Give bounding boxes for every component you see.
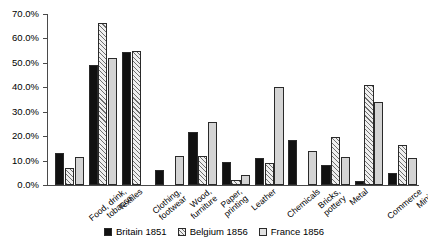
legend-entry: France 1856 [259, 226, 324, 237]
legend-swatch-icon [104, 228, 112, 236]
y-axis-tick-label: 30.0% [12, 107, 39, 117]
bar [75, 157, 84, 185]
chart-legend: Britain 1851Belgium 1856France 1856 [0, 226, 428, 237]
legend-label: Belgium 1856 [190, 226, 248, 237]
bar [364, 85, 373, 185]
x-axis-tick-label: Paper, printing [216, 187, 250, 219]
bar [321, 165, 330, 185]
bar [274, 87, 283, 185]
bar [98, 23, 107, 185]
y-axis-tick-mark [43, 185, 47, 186]
bar [122, 52, 131, 185]
bar [308, 151, 317, 185]
bar [55, 153, 64, 185]
legend-entry: Belgium 1856 [178, 226, 248, 237]
bar [231, 180, 240, 185]
bar [331, 137, 340, 185]
y-axis-tick-mark [43, 87, 47, 88]
y-axis: 0.0%10.0%20.0%30.0%40.0%50.0%60.0%70.0% [0, 14, 45, 186]
bar-group [155, 14, 184, 185]
y-axis-tick-mark [43, 38, 47, 39]
y-axis-tick-mark [43, 14, 47, 15]
y-axis-tick-mark [43, 63, 47, 64]
legend-swatch-icon [178, 228, 186, 236]
bar-group [188, 14, 217, 185]
legend-entry: Britain 1851 [104, 226, 167, 237]
bar-chart: 0.0%10.0%20.0%30.0%40.0%50.0%60.0%70.0% … [0, 0, 428, 247]
bar-group [89, 14, 118, 185]
x-axis-tick-label: Wood, furniture [184, 187, 220, 221]
legend-label: France 1856 [271, 226, 324, 237]
bar [408, 158, 417, 185]
x-axis-tick-label: Leather [250, 187, 278, 213]
bars-layer [47, 14, 419, 186]
bar [374, 102, 383, 185]
bar-group [255, 14, 284, 185]
x-axis-tick-label: Metal [348, 187, 370, 208]
y-axis-tick-label: 60.0% [12, 34, 39, 44]
bar [341, 157, 350, 185]
bar [288, 140, 297, 185]
y-axis-tick-label: 70.0% [12, 9, 39, 19]
y-axis-tick-mark [43, 136, 47, 137]
y-axis-tick-label: 0.0% [17, 180, 39, 190]
bar [188, 132, 197, 185]
bar [198, 156, 207, 185]
x-axis-tick-label: Clothing, footwear [151, 187, 189, 223]
bar [388, 173, 397, 185]
bar-group [288, 14, 317, 185]
y-axis-tick-mark [43, 112, 47, 113]
plot-area [47, 14, 419, 186]
bar [355, 181, 364, 185]
bar-group [122, 14, 151, 185]
bar-group [222, 14, 251, 185]
bar-group [355, 14, 384, 185]
bar [65, 168, 74, 185]
y-axis-tick-label: 50.0% [12, 58, 39, 68]
bar [222, 162, 231, 185]
bar [155, 170, 164, 185]
bar [175, 156, 184, 185]
bar-group [321, 14, 350, 185]
y-axis-tick-label: 40.0% [12, 83, 39, 93]
bar [208, 122, 217, 186]
y-axis-tick-mark [43, 161, 47, 162]
bar [89, 65, 98, 185]
bar [255, 158, 264, 185]
bar [132, 51, 141, 185]
y-axis-tick-label: 20.0% [12, 131, 39, 141]
legend-label: Britain 1851 [116, 226, 167, 237]
bar [241, 175, 250, 185]
bar [108, 58, 117, 185]
bar-group [388, 14, 417, 185]
bar [398, 145, 407, 185]
bar-group [55, 14, 84, 185]
bar [265, 163, 274, 185]
y-axis-tick-label: 10.0% [12, 156, 39, 166]
legend-swatch-icon [259, 228, 267, 236]
